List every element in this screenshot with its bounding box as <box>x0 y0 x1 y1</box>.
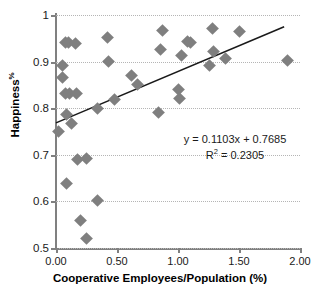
x-tick-label: 2.00 <box>289 255 310 267</box>
y-tick-label: 0.8 <box>33 102 49 114</box>
x-tick-mark <box>117 248 119 253</box>
trendline-annotation: y = 0.1103x + 0.7685 R2 = 0.2305 <box>174 132 296 162</box>
y-tick-label: 0.5 <box>33 242 49 254</box>
trendline-equation: y = 0.1103x + 0.7685 <box>174 132 296 147</box>
x-tick-mark <box>239 248 241 253</box>
y-tick-label: 0.7 <box>33 149 49 161</box>
x-tick-label: 0.00 <box>45 255 66 267</box>
x-tick-label: 1.50 <box>228 255 249 267</box>
x-tick-mark <box>178 248 180 253</box>
r-squared-prefix: R <box>206 149 214 161</box>
y-axis-title-unit: % <box>7 72 16 79</box>
y-tick-label: 1 <box>43 9 49 21</box>
scatter-chart: 0.50.60.70.80.91 0.000.501.001.502.00 y … <box>0 0 320 297</box>
x-tick-label: 1.00 <box>167 255 188 267</box>
y-tick-label: 0.6 <box>33 195 49 207</box>
y-axis-title: Happiness% <box>7 35 21 175</box>
y-axis-title-text: Happiness <box>9 79 21 137</box>
plot-area: 0.50.60.70.80.91 0.000.501.001.502.00 y … <box>56 15 300 248</box>
x-tick-mark <box>56 248 58 253</box>
y-tick-label: 0.9 <box>33 56 49 68</box>
trendline-r-squared: R2 = 0.2305 <box>174 147 296 163</box>
x-tick-label: 0.50 <box>106 255 127 267</box>
x-tick-mark <box>300 248 302 253</box>
r-squared-value: = 0.2305 <box>218 149 264 161</box>
x-axis-title: Cooperative Employees/Population (%) <box>0 272 320 284</box>
